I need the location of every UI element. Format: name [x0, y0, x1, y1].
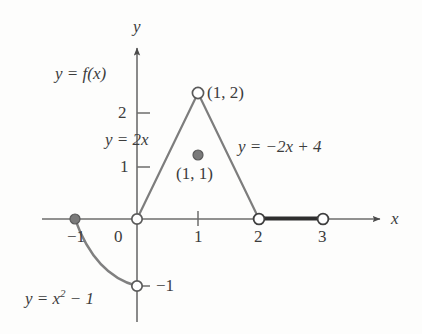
x-tick-label-2: 2 — [254, 228, 263, 245]
open-point-2-0 — [254, 214, 265, 225]
open-point-0-0 — [132, 214, 142, 224]
x-axis-label: x — [391, 210, 399, 227]
y-tick-label-1: 1 — [120, 158, 129, 175]
branch-label-parabola: y = x2 − 1 — [25, 288, 94, 307]
y-tick-label-neg1: −1 — [156, 277, 174, 294]
open-point-1-2 — [192, 87, 203, 98]
filled-point-neg1-0 — [70, 214, 80, 224]
branch-label-left: y = 2x — [105, 131, 149, 148]
x-tick-label-neg1: −1 — [67, 228, 85, 245]
point-label-1-1: (1, 1) — [176, 165, 213, 182]
point-label-1-2: (1, 2) — [207, 84, 244, 101]
open-point-0-neg1 — [132, 281, 142, 291]
line-branch-neg2x-plus4 — [198, 93, 259, 219]
branch-label-right: y = −2x + 4 — [238, 138, 322, 155]
y-tick-label-2: 2 — [118, 104, 127, 121]
filled-point-1-1 — [193, 150, 203, 160]
y-axis-label: y — [133, 18, 141, 35]
line-branch-2x — [137, 93, 198, 219]
function-name-label: y = f(x) — [55, 65, 106, 82]
parabola-label-suffix: − 1 — [66, 289, 94, 308]
function-graph-figure: y x 2 1 −1 −1 0 1 2 3 y = f(x) y = 2x y … — [0, 0, 422, 334]
parabola-label-prefix: y = x — [25, 289, 60, 308]
x-tick-label-1: 1 — [194, 228, 203, 245]
x-tick-label-0: 0 — [114, 228, 123, 245]
open-point-3-0 — [318, 214, 329, 225]
x-tick-label-3: 3 — [318, 228, 327, 245]
